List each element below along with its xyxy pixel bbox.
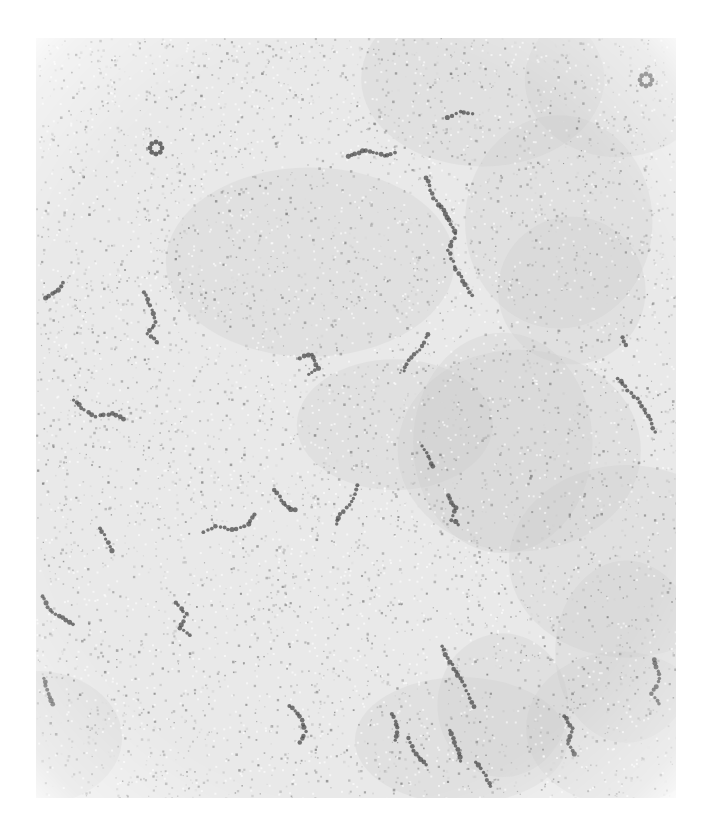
micrograph-canvas: [36, 38, 676, 798]
chromatin-fiber: [287, 704, 307, 745]
chromatin-fiber: [41, 594, 75, 626]
chromatin-fiber: [142, 290, 159, 344]
chromatin-fiber: [98, 526, 114, 553]
chromatin-fiber: [201, 512, 256, 534]
chromatin-fiber: [346, 148, 397, 159]
figure-header-text: [38, 0, 268, 4]
chromatin-cluster: [148, 140, 165, 157]
chromatin-fiber: [335, 483, 359, 525]
electron-micrograph: [36, 38, 676, 798]
